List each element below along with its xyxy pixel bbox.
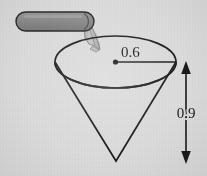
radius-label: 0.6 — [121, 44, 140, 60]
diagram-canvas: 0.6 0.9 — [0, 0, 207, 176]
height-label: 0.9 — [177, 105, 196, 121]
radius-dimension — [113, 59, 176, 64]
cone-body — [55, 62, 176, 161]
arrow-up-head — [181, 61, 191, 74]
pipe-spout — [16, 12, 94, 31]
geometry-figure: 0.6 0.9 — [0, 0, 207, 176]
center-dot — [113, 59, 118, 64]
arrow-down-head — [181, 151, 191, 164]
